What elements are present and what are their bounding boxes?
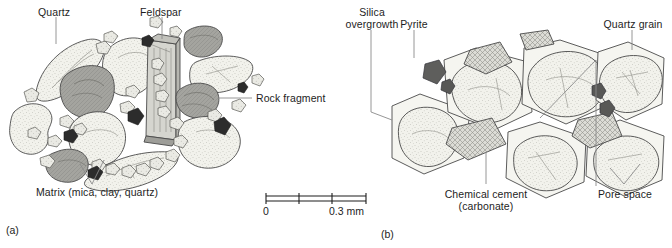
label-pyrite: Pyrite [390,18,438,30]
label-chemical-cement-line2: (carbonate) [424,200,548,212]
label-silica-overgrowth-line1: Silica [336,6,408,18]
panel-a-drawing [10,16,264,191]
panel-a-id: (a) [6,224,19,236]
scale-bar-end-label: 0.3 mm [329,205,364,217]
label-quartz-grain: Quartz grain [598,18,668,30]
scale-bar [266,193,366,204]
figure-root: Quartz Feldspar Rock fragment Matrix (mi… [0,0,672,248]
scale-bar-start-label: 0 [263,205,269,217]
label-pore-space: Pore space [589,188,661,200]
label-quartz: Quartz [38,6,70,18]
label-rock-fragment: Rock fragment [256,92,326,104]
label-feldspar: Feldspar [140,6,182,18]
label-matrix: Matrix (mica, clay, quartz) [36,186,158,198]
panel-b-drawing [371,30,664,198]
panel-b-id: (b) [381,228,394,240]
label-chemical-cement-line1: Chemical cement [424,188,548,200]
